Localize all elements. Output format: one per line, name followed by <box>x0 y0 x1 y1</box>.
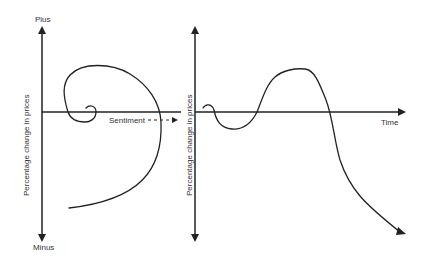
time-label: Time <box>381 118 399 127</box>
sentiment-label: Sentiment <box>109 116 146 125</box>
left-panel: Plus Minus Percentage change in prices <box>22 15 181 252</box>
spiral-drawn <box>64 66 161 209</box>
sentiment-connector: Sentiment <box>109 116 177 125</box>
curve-arrowhead-icon <box>396 227 406 235</box>
left-y-axis-title: Percentage change in prices <box>22 95 31 196</box>
right-panel: Time Percentage change in prices <box>185 28 406 240</box>
price-wave-curve <box>203 69 400 232</box>
right-y-axis-title: Percentage change in prices <box>185 95 194 196</box>
plus-label: Plus <box>35 15 51 24</box>
minus-label: Minus <box>33 243 54 252</box>
diagram-canvas: Plus Minus Percentage change in prices S… <box>0 0 425 264</box>
